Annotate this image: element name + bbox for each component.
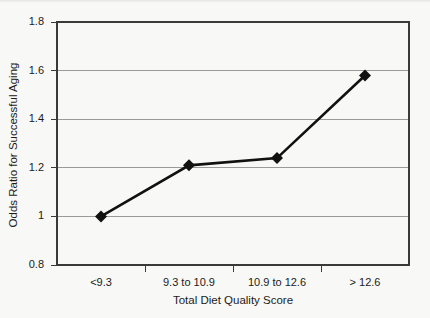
x-tick-label-cat-1: <9.3 [57,276,145,288]
data-point-marker [95,210,107,222]
data-line [101,75,365,216]
x-tick-label-cat-4: > 12.6 [321,276,409,288]
gridlines [57,71,409,217]
plot-canvas [0,0,430,318]
x-tick-label-cat-2: 9.3 to 10.9 [145,276,233,288]
plot-frame [57,22,409,265]
y-tick-label-0.8: 0.8 [0,258,44,270]
data-markers [95,69,371,222]
x-axis-title: Total Diet Quality Score [57,294,409,306]
y-tick-label-1.8: 1.8 [0,15,44,27]
x-tick-label-cat-3: 10.9 to 12.6 [233,276,321,288]
x-tick-marks [145,265,321,272]
y-tick-marks [51,22,57,265]
chart-figure: 1.8 1.6 1.4 1.2 1 0.8 <9.3 9.3 to 10.9 1… [0,0,430,318]
y-axis-title: Odds Ratio for Successful Aging [7,63,19,228]
data-point-marker [183,159,195,171]
